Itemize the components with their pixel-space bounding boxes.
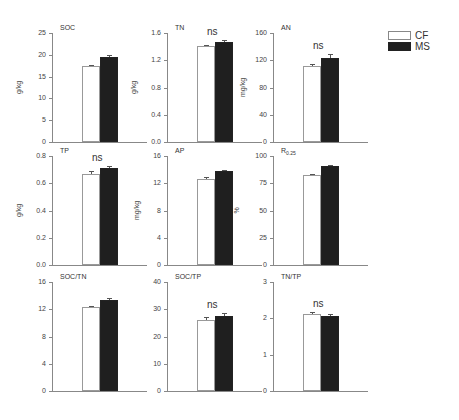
y-tick [49, 33, 52, 34]
x-axis-tn-tp [270, 391, 368, 392]
error-cap [222, 313, 227, 314]
error-cap [89, 306, 94, 307]
y-tick [270, 115, 273, 116]
error-cap [310, 312, 315, 313]
bar-soc-tn-cf [82, 307, 100, 391]
y-tick-label: 0.0 [22, 261, 46, 268]
y-tick-label: 0.4 [137, 111, 161, 118]
y-tick-label: 20 [22, 51, 46, 58]
y-tick [49, 156, 52, 157]
error-cap [222, 170, 227, 171]
y-tick [270, 355, 273, 356]
bar-ap-ms [215, 171, 233, 265]
y-tick-label: 0.0 [137, 138, 161, 145]
y-axis-tn [167, 33, 168, 142]
y-axis-tp [52, 156, 53, 265]
y-tick-label: 1.2 [137, 56, 161, 63]
y-tick [49, 120, 52, 121]
legend-label-cf: CF [415, 30, 428, 41]
y-tick [270, 318, 273, 319]
panel-title-tn: TN [175, 24, 184, 31]
y-tick-label: 1 [243, 351, 267, 358]
y-tick [270, 282, 273, 283]
bar-tp-cf [82, 174, 100, 265]
y-tick [270, 265, 273, 266]
error-cap [328, 54, 333, 55]
legend-item-ms: MS [388, 41, 430, 52]
error-cap [107, 166, 112, 167]
y-tick [49, 98, 52, 99]
bar-tn-cf [197, 46, 215, 142]
y-axis-soc-tn [52, 282, 53, 391]
panel-title-r: R0.25 [281, 147, 296, 156]
x-axis-soc [49, 142, 147, 143]
y-axis-label-soc: g/kg [15, 80, 22, 93]
y-tick-label: 4 [137, 234, 161, 241]
y-tick [164, 364, 167, 365]
y-tick-label: 8 [22, 333, 46, 340]
panel-title-ap: AP [175, 147, 184, 154]
y-tick-label: 0.6 [22, 179, 46, 186]
y-tick [164, 88, 167, 89]
y-tick [270, 238, 273, 239]
legend-label-ms: MS [415, 41, 430, 52]
bar-ap-cf [197, 179, 215, 265]
y-tick-label: 10 [137, 360, 161, 367]
y-tick [164, 391, 167, 392]
y-tick-label: 0 [22, 387, 46, 394]
y-tick [49, 55, 52, 56]
y-tick-label: 2 [243, 314, 267, 321]
error-cap [107, 55, 112, 56]
y-tick [164, 142, 167, 143]
error-cap [328, 165, 333, 166]
y-tick [49, 211, 52, 212]
y-axis-tn-tp [273, 282, 274, 391]
x-axis-an [270, 142, 368, 143]
panel-title-an: AN [281, 24, 291, 31]
y-tick-label: 50 [243, 207, 267, 214]
y-tick-label: 40 [137, 278, 161, 285]
y-tick [270, 183, 273, 184]
y-tick [164, 265, 167, 266]
error-cap [89, 171, 94, 172]
y-tick [49, 309, 52, 310]
significance-label: ns [207, 299, 218, 310]
y-tick-label: 1.6 [137, 29, 161, 36]
y-tick [164, 309, 167, 310]
bar-tn-tp-ms [321, 316, 339, 391]
legend-item-cf: CF [388, 30, 430, 41]
y-tick-label: 0.2 [22, 234, 46, 241]
y-tick [164, 337, 167, 338]
bar-tn-tp-cf [303, 314, 321, 391]
y-tick [164, 60, 167, 61]
y-axis-ap [167, 156, 168, 265]
y-tick-label: 100 [243, 152, 267, 159]
bar-an-cf [303, 66, 321, 142]
y-tick-label: 12 [137, 179, 161, 186]
y-tick-label: 0 [243, 387, 267, 394]
bar-an-ms [321, 58, 339, 142]
y-tick-label: 25 [22, 29, 46, 36]
panel-title-soc-tp: SOC/TP [175, 273, 201, 280]
y-axis-label-tn: g/kg [130, 80, 137, 93]
significance-label: ns [207, 26, 218, 37]
y-axis-r [273, 156, 274, 265]
panel-title-tn-tp: TN/TP [281, 273, 301, 280]
y-tick-label: 75 [243, 179, 267, 186]
x-axis-tp [49, 265, 147, 266]
error-cap [89, 65, 94, 66]
y-tick-label: 40 [243, 111, 267, 118]
error-cap [310, 174, 315, 175]
y-tick-label: 0 [243, 138, 267, 145]
error-cap [204, 317, 209, 318]
y-tick [164, 115, 167, 116]
bar-soc-tn-ms [100, 300, 118, 391]
y-tick-label: 4 [22, 360, 46, 367]
x-axis-r [270, 265, 368, 266]
y-tick-label: 5 [22, 116, 46, 123]
y-tick [270, 33, 273, 34]
y-tick [164, 238, 167, 239]
y-tick-label: 10 [22, 94, 46, 101]
y-tick-label: 160 [243, 29, 267, 36]
x-axis-soc-tn [49, 391, 147, 392]
